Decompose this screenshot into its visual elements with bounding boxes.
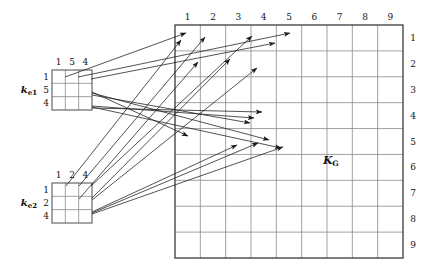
element-ke1-col-label-2: 4 <box>82 58 88 67</box>
global-row-label-9: 9 <box>410 241 416 250</box>
element-ke1-row-label-0: 1 <box>43 72 49 81</box>
global-row-label-5: 5 <box>410 137 416 146</box>
figure-canvas: 123456789123456789KG154154ke1124124ke2 <box>0 0 432 274</box>
global-col-label-8: 8 <box>362 13 368 22</box>
global-row-label-8: 8 <box>410 215 416 224</box>
element-matrix-grid-ke1-border <box>52 70 92 110</box>
global-col-label-1: 1 <box>185 13 191 22</box>
global-col-label-5: 5 <box>286 13 292 22</box>
global-col-label-9: 9 <box>387 13 393 22</box>
diagram-vector-layer <box>0 0 432 274</box>
assembly-arrow-e2-r2c1 <box>79 62 198 199</box>
element-ke2-col-label-0: 1 <box>56 171 62 180</box>
element-matrix-grid-ke1 <box>52 70 92 110</box>
global-matrix-grid-border <box>175 25 403 258</box>
element-ke2-col-label-2: 4 <box>82 171 88 180</box>
element-matrix-name-ke2: ke2 <box>21 198 37 208</box>
global-row-label-2: 2 <box>410 59 416 68</box>
global-col-label-3: 3 <box>235 13 241 22</box>
element-ke2-col-label-1: 2 <box>69 171 75 180</box>
global-col-label-4: 4 <box>261 13 267 22</box>
element-ke1-col-label-1: 5 <box>69 58 75 67</box>
element-ke1-col-label-0: 1 <box>56 58 62 67</box>
element-matrix-name-ke1: ke1 <box>21 85 37 95</box>
assembly-arrow-e2-r3c1 <box>92 145 237 212</box>
assembly-arrow-group <box>65 33 290 214</box>
element-ke2-row-label-2: 4 <box>43 212 49 221</box>
global-matrix-grid <box>175 25 403 258</box>
assembly-arrow-e1-r1c2 <box>78 33 290 77</box>
global-col-label-2: 2 <box>210 13 216 22</box>
global-col-label-7: 7 <box>337 13 343 22</box>
global-row-label-7: 7 <box>410 189 416 198</box>
assembly-arrow-e1-r1c3 <box>91 43 275 79</box>
element-ke2-row-label-0: 1 <box>43 185 49 194</box>
element-ke1-row-label-2: 4 <box>43 99 49 108</box>
global-matrix-name: KG <box>323 155 339 166</box>
element-ke2-row-label-1: 2 <box>43 199 49 208</box>
assembly-arrow-e1-r1c1 <box>65 33 186 77</box>
global-row-label-3: 3 <box>410 85 416 94</box>
element-matrix-grid-ke2 <box>52 183 92 223</box>
assembly-arrow-e1-r3c3 <box>92 108 262 112</box>
element-ke1-row-label-1: 5 <box>43 86 49 95</box>
element-matrix-grid-ke2-border <box>52 183 92 223</box>
global-row-label-1: 1 <box>410 33 416 42</box>
global-row-label-6: 6 <box>410 163 416 172</box>
global-col-label-6: 6 <box>311 13 317 22</box>
global-row-label-4: 4 <box>410 111 416 120</box>
